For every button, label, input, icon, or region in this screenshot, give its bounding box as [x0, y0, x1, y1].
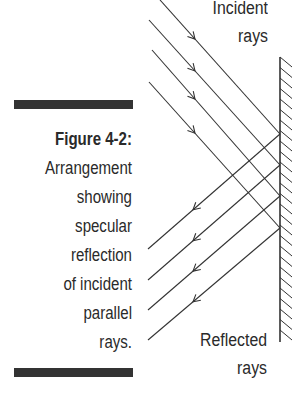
- mirror-hatch: [280, 183, 292, 193]
- incident-ray: [149, 20, 280, 165]
- mirror-hatch: [280, 173, 292, 183]
- reflected-rays: [148, 134, 280, 340]
- mirror-hatch: [280, 236, 292, 246]
- mirror-hatch: [280, 299, 292, 309]
- mirror-hatch: [280, 120, 292, 130]
- mirror-hatch: [280, 78, 292, 88]
- mirror-hatch: [280, 204, 292, 214]
- mirror-hatch: [280, 68, 292, 78]
- mirror-hatch: [280, 152, 292, 162]
- mirror-hatch: [280, 246, 292, 256]
- mirror-hatch: [280, 320, 292, 330]
- reflected-ray: [148, 134, 280, 249]
- mirror-hatch: [280, 99, 292, 109]
- mirror-hatch: [280, 194, 292, 204]
- mirror-hatch: [280, 257, 292, 267]
- incident-rays: [149, 0, 280, 228]
- incident-ray: [152, 50, 280, 196]
- mirror-hatch: [280, 309, 292, 319]
- reflected-ray: [148, 165, 280, 280]
- mirror-hatch: [280, 278, 292, 288]
- mirror-hatch: [280, 288, 292, 298]
- mirror-hatch: [280, 131, 292, 141]
- reflection-diagram: [0, 0, 302, 397]
- mirror: [280, 57, 292, 342]
- incident-ray: [149, 82, 280, 228]
- mirror-hatch: [280, 215, 292, 225]
- mirror-hatch: [280, 141, 292, 151]
- mirror-hatch: [280, 225, 292, 235]
- mirror-hatch: [280, 162, 292, 172]
- mirror-hatch: [280, 57, 292, 67]
- reflected-ray: [148, 196, 280, 310]
- reflected-ray: [148, 228, 280, 340]
- mirror-hatch: [280, 330, 292, 340]
- mirror-hatch: [280, 110, 292, 120]
- mirror-hatch: [280, 267, 292, 277]
- mirror-hatch: [280, 89, 292, 99]
